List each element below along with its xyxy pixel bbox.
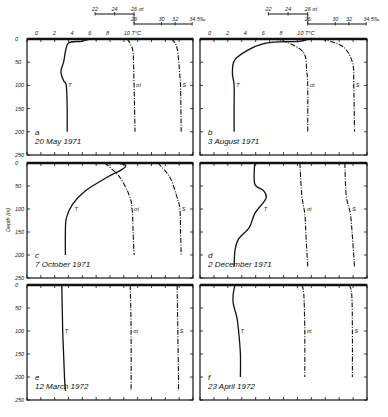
panel-letter: e <box>35 373 40 382</box>
curve-label: σt <box>310 82 315 88</box>
panel-d: TσtSd2 December 1971 <box>200 163 367 278</box>
svg-text:24: 24 <box>111 6 118 12</box>
depth-tick-label: 200 <box>14 252 25 258</box>
svg-text:10 T°C: 10 T°C <box>297 30 314 36</box>
sigma-t-curve <box>302 285 305 377</box>
panel-date: 7 October 1971 <box>35 260 90 269</box>
temperature-curve <box>61 39 90 132</box>
svg-text:22: 22 <box>91 6 98 12</box>
panel-f: TσtSf23 April 1972 <box>200 285 367 400</box>
salinity-curve <box>177 285 178 391</box>
svg-text:4: 4 <box>70 30 73 36</box>
svg-text:0: 0 <box>35 30 39 36</box>
panel-date: 3 August 1971 <box>208 137 259 146</box>
panel-letter: b <box>208 128 213 137</box>
top-scales-left: 222426 σt26303234.5‰0246810 T°C <box>35 6 206 36</box>
depth-tick-label: 150 <box>15 229 25 235</box>
svg-text:26 σt: 26 σt <box>304 6 318 12</box>
panel-date: 2 December 1971 <box>207 260 272 269</box>
panel-date: 20 May 1971 <box>34 137 81 146</box>
depth-tick-label: 50 <box>15 305 22 311</box>
depth-tick-label: 50 <box>15 59 22 65</box>
svg-text:8: 8 <box>279 30 283 36</box>
svg-text:6: 6 <box>88 30 92 36</box>
salinity-curve <box>322 39 355 132</box>
curve-label: σt <box>133 328 138 334</box>
depth-axis-label: Depth (m) <box>5 207 11 232</box>
svg-text:8: 8 <box>106 30 110 36</box>
curve-label: σt <box>134 206 139 212</box>
salinity-curve <box>172 39 182 132</box>
salinity-curve <box>349 285 352 377</box>
depth-tick-label: 200 <box>14 374 25 380</box>
panel-c: 050100150200250TσtSc7 October 1971 <box>14 160 193 281</box>
curve-label: S <box>180 328 184 334</box>
sigma-t-curve <box>127 39 135 132</box>
panel-a: 050100150200250TσtSa20 May 1971 <box>14 36 193 158</box>
panel-e: 050100150200250TσtSe12 March 1972 <box>14 282 193 403</box>
svg-text:2: 2 <box>52 30 56 36</box>
svg-text:32: 32 <box>172 16 178 22</box>
curve-label: S <box>354 328 358 334</box>
curve-label: σt <box>307 206 312 212</box>
curve-label: S <box>356 82 360 88</box>
panel-date: 12 March 1972 <box>35 382 89 391</box>
profile-figure: 222426 σt26303234.5‰0246810 T°C222426 σt… <box>0 0 388 417</box>
curve-label: σt <box>307 328 312 334</box>
depth-tick-label: 0 <box>15 160 19 166</box>
panel-date: 23 April 1972 <box>207 382 255 391</box>
depth-tick-label: 200 <box>14 129 25 135</box>
sigma-t-curve <box>130 285 131 391</box>
svg-text:34.5‰: 34.5‰ <box>363 16 380 22</box>
depth-tick-label: 100 <box>15 328 25 334</box>
salinity-curve <box>345 163 355 267</box>
panel-b: TσtSb3 August 1971 <box>200 39 367 155</box>
curve-label: S <box>352 206 356 212</box>
top-scales-right: 222426 σt26303234.5‰0246810 T°C <box>208 6 380 36</box>
curve-label: T <box>65 328 69 334</box>
curve-label: T <box>264 206 268 212</box>
depth-tick-label: 50 <box>15 183 22 189</box>
depth-tick-label: 0 <box>15 36 19 42</box>
depth-tick-label: 100 <box>15 206 25 212</box>
temperature-curve <box>62 285 66 391</box>
svg-text:4: 4 <box>244 30 247 36</box>
depth-tick-label: 250 <box>14 152 25 158</box>
curve-label: σt <box>136 82 141 88</box>
panel-letter: f <box>208 373 211 382</box>
depth-tick-label: 150 <box>15 351 25 357</box>
curve-label: S <box>182 206 186 212</box>
temperature-curve <box>234 163 266 267</box>
temperature-curve <box>232 39 308 132</box>
svg-text:24: 24 <box>284 6 291 12</box>
sigma-t-curve <box>300 163 308 267</box>
salinity-curve <box>158 163 181 255</box>
curve-label: T <box>74 206 78 212</box>
svg-text:10 T°C: 10 T°C <box>124 30 141 36</box>
panel-letter: d <box>208 251 213 260</box>
panel-letter: a <box>35 128 40 137</box>
curve-label: T <box>68 82 72 88</box>
curve-label: T <box>241 328 245 334</box>
svg-text:0: 0 <box>208 30 212 36</box>
svg-text:22: 22 <box>264 6 271 12</box>
depth-tick-label: 250 <box>14 397 25 403</box>
svg-text:26: 26 <box>130 16 138 22</box>
depth-tick-label: 250 <box>14 275 25 281</box>
svg-text:30: 30 <box>158 16 165 22</box>
svg-text:32: 32 <box>346 16 352 22</box>
svg-text:6: 6 <box>262 30 266 36</box>
sigma-t-curve <box>273 39 307 132</box>
svg-text:30: 30 <box>332 16 339 22</box>
depth-tick-label: 0 <box>15 282 19 288</box>
temperature-curve <box>233 285 241 377</box>
svg-text:34.5‰: 34.5‰ <box>189 16 206 22</box>
svg-text:26 σt: 26 σt <box>130 6 144 12</box>
svg-text:26: 26 <box>304 16 312 22</box>
depth-tick-label: 150 <box>15 106 25 112</box>
panel-letter: c <box>35 251 39 260</box>
depth-tick-label: 100 <box>15 82 25 88</box>
curve-label: T <box>236 82 240 88</box>
svg-text:2: 2 <box>225 30 229 36</box>
curve-label: S <box>183 82 187 88</box>
